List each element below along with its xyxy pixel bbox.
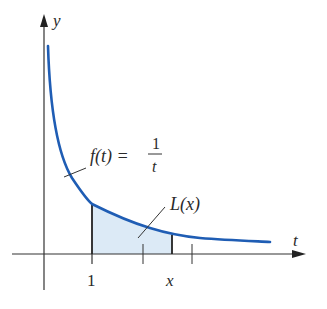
y-axis-label: y <box>51 11 61 30</box>
tick-label-1: 1 <box>87 271 96 290</box>
diagram-canvas: y t f(t) = 1 t L(x) 1 x <box>0 0 327 309</box>
t-axis-label: t <box>293 231 299 250</box>
function-label-denominator: t <box>152 158 157 175</box>
function-label-numerator: 1 <box>152 135 160 152</box>
area-label: L(x) <box>169 194 200 215</box>
y-axis-arrow-icon <box>40 14 48 27</box>
function-label: f(t) = <box>90 146 129 167</box>
t-axis-arrow-icon <box>292 250 306 258</box>
tick-label-x: x <box>165 271 174 290</box>
shaded-area-L <box>92 204 172 254</box>
